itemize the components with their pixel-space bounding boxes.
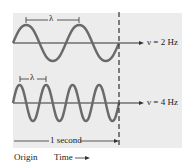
top-wavelength-label: λ	[49, 13, 53, 23]
top-axis-arrow-icon	[139, 41, 144, 45]
time-arrow-icon	[85, 156, 90, 160]
wave-diagram	[0, 0, 190, 167]
bottom-axis-arrow-icon	[139, 101, 144, 105]
duration-label: 1 second	[50, 135, 82, 145]
bottom-frequency-label: ν = 4 Hz	[147, 97, 178, 107]
origin-label: Origin	[14, 152, 38, 162]
top-frequency-label: ν = 2 Hz	[147, 37, 178, 47]
time-label: Time	[54, 152, 73, 162]
bottom-wavelength-label: λ	[30, 72, 34, 82]
